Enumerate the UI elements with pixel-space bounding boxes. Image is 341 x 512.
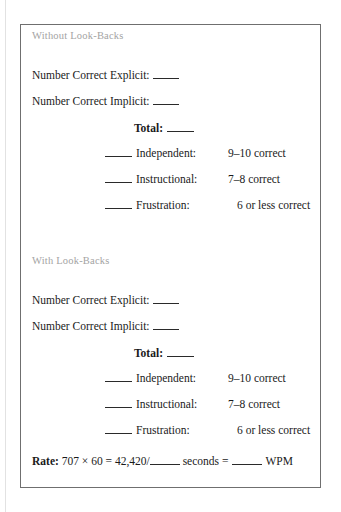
section-with-look-backs: With Look-Backs Number Correct Explicit:… [21, 254, 320, 438]
rate-seconds-blank[interactable] [150, 454, 180, 465]
total-line-with: Total: [134, 345, 320, 361]
instructional-blank[interactable] [105, 172, 132, 183]
independent-value: 9–10 correct [228, 370, 286, 386]
rate-label: Rate: [32, 455, 59, 467]
total-blank[interactable] [167, 121, 194, 132]
criteria-row-independent: Independent: 9–10 correct [105, 145, 320, 161]
independent-label: Independent: [136, 145, 228, 161]
total-line-without: Total: [134, 120, 320, 136]
section-without-look-backs: Without Look-Backs Number Correct Explic… [21, 29, 320, 213]
criteria-list-without: Independent: 9–10 correct Instructional:… [105, 145, 320, 213]
number-correct-explicit-line-without: Number Correct Explicit: [32, 67, 320, 83]
number-correct-implicit-label: Number Correct Implicit: [32, 95, 150, 107]
instructional-value: 7–8 correct [228, 396, 280, 412]
rate-calculation-line: Rate: 707 × 60 = 42,420/ seconds =WPM [32, 453, 293, 469]
independent-label: Independent: [136, 370, 228, 386]
criteria-row-instructional: Instructional: 7–8 correct [105, 396, 320, 412]
frustration-label: Frustration: [136, 197, 228, 213]
independent-blank[interactable] [105, 371, 132, 382]
rate-wpm-blank[interactable] [232, 454, 262, 465]
section-header-with-look-backs: With Look-Backs [32, 254, 320, 268]
number-correct-explicit-blank[interactable] [153, 68, 179, 79]
rate-wpm-unit: WPM [265, 455, 292, 467]
independent-value: 9–10 correct [228, 145, 286, 161]
number-correct-implicit-label: Number Correct Implicit: [32, 320, 150, 332]
number-correct-explicit-label: Number Correct Explicit: [32, 294, 150, 306]
frustration-blank[interactable] [105, 423, 132, 434]
independent-blank[interactable] [105, 146, 132, 157]
criteria-row-frustration: Frustration: 6 or less correct [105, 422, 320, 438]
instructional-label: Instructional: [136, 171, 228, 187]
criteria-row-independent: Independent: 9–10 correct [105, 370, 320, 386]
section-header-without-look-backs: Without Look-Backs [32, 29, 320, 43]
instructional-label: Instructional: [136, 396, 228, 412]
scoring-worksheet-box: Without Look-Backs Number Correct Explic… [20, 24, 321, 488]
number-correct-implicit-line-without: Number Correct Implicit: [32, 93, 320, 109]
rate-seconds-unit: seconds = [183, 455, 229, 467]
number-correct-implicit-blank[interactable] [153, 94, 179, 105]
instructional-value: 7–8 correct [228, 171, 280, 187]
frustration-value: 6 or less correct [228, 197, 310, 213]
criteria-row-frustration: Frustration: 6 or less correct [105, 197, 320, 213]
criteria-list-with: Independent: 9–10 correct Instructional:… [105, 370, 320, 438]
total-label: Total: [134, 122, 163, 134]
number-correct-explicit-label: Number Correct Explicit: [32, 69, 150, 81]
criteria-row-instructional: Instructional: 7–8 correct [105, 171, 320, 187]
total-blank[interactable] [167, 346, 194, 357]
number-correct-implicit-line-with: Number Correct Implicit: [32, 318, 320, 334]
page-binding-edge [5, 0, 6, 512]
number-correct-implicit-blank[interactable] [153, 319, 179, 330]
frustration-blank[interactable] [105, 198, 132, 209]
rate-formula: 707 × 60 = 42,420/ [62, 455, 150, 467]
number-correct-explicit-line-with: Number Correct Explicit: [32, 292, 320, 308]
frustration-value: 6 or less correct [228, 422, 310, 438]
frustration-label: Frustration: [136, 422, 228, 438]
instructional-blank[interactable] [105, 397, 132, 408]
total-label: Total: [134, 347, 163, 359]
number-correct-explicit-blank[interactable] [153, 293, 179, 304]
